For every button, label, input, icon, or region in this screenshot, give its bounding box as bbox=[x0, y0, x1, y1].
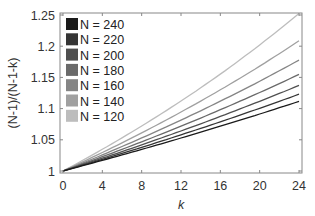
legend-label: N = 240 bbox=[80, 18, 124, 32]
legend-swatch bbox=[66, 79, 78, 91]
x-axis-label: k bbox=[178, 198, 185, 212]
legend-label: N = 160 bbox=[80, 79, 124, 93]
legend-swatch bbox=[66, 110, 78, 122]
legend-swatch bbox=[66, 64, 78, 76]
x-tick-label: 12 bbox=[174, 179, 188, 193]
y-axis-label: (N-1)/(N-1-k) bbox=[6, 58, 20, 129]
x-tick-label: 8 bbox=[138, 179, 145, 193]
y-tick-label: 1.15 bbox=[31, 71, 55, 85]
x-tick-label: 24 bbox=[292, 179, 306, 193]
y-tick-label: 1.25 bbox=[31, 9, 55, 23]
y-tick-label: 1.2 bbox=[38, 40, 55, 54]
legend-swatch bbox=[66, 33, 78, 45]
line-chart: 04812162024 11.051.11.151.21.25 k (N-1)/… bbox=[0, 0, 315, 216]
legend-label: N = 220 bbox=[80, 33, 124, 47]
x-tick-label: 0 bbox=[60, 179, 67, 193]
y-tick-label: 1.1 bbox=[38, 102, 55, 116]
legend-swatch bbox=[66, 18, 78, 30]
x-tick-label: 20 bbox=[253, 179, 267, 193]
legend-label: N = 200 bbox=[80, 49, 124, 63]
x-tick-label: 16 bbox=[213, 179, 227, 193]
legend-label: N = 120 bbox=[80, 110, 124, 124]
legend-label: N = 180 bbox=[80, 64, 124, 78]
x-tick-label: 4 bbox=[99, 179, 106, 193]
legend-swatch bbox=[66, 95, 78, 107]
legend-label: N = 140 bbox=[80, 95, 124, 109]
legend: N = 240N = 220N = 200N = 180N = 160N = 1… bbox=[66, 18, 124, 124]
y-tick-label: 1 bbox=[48, 165, 55, 179]
y-tick-label: 1.05 bbox=[31, 133, 55, 147]
legend-swatch bbox=[66, 49, 78, 61]
